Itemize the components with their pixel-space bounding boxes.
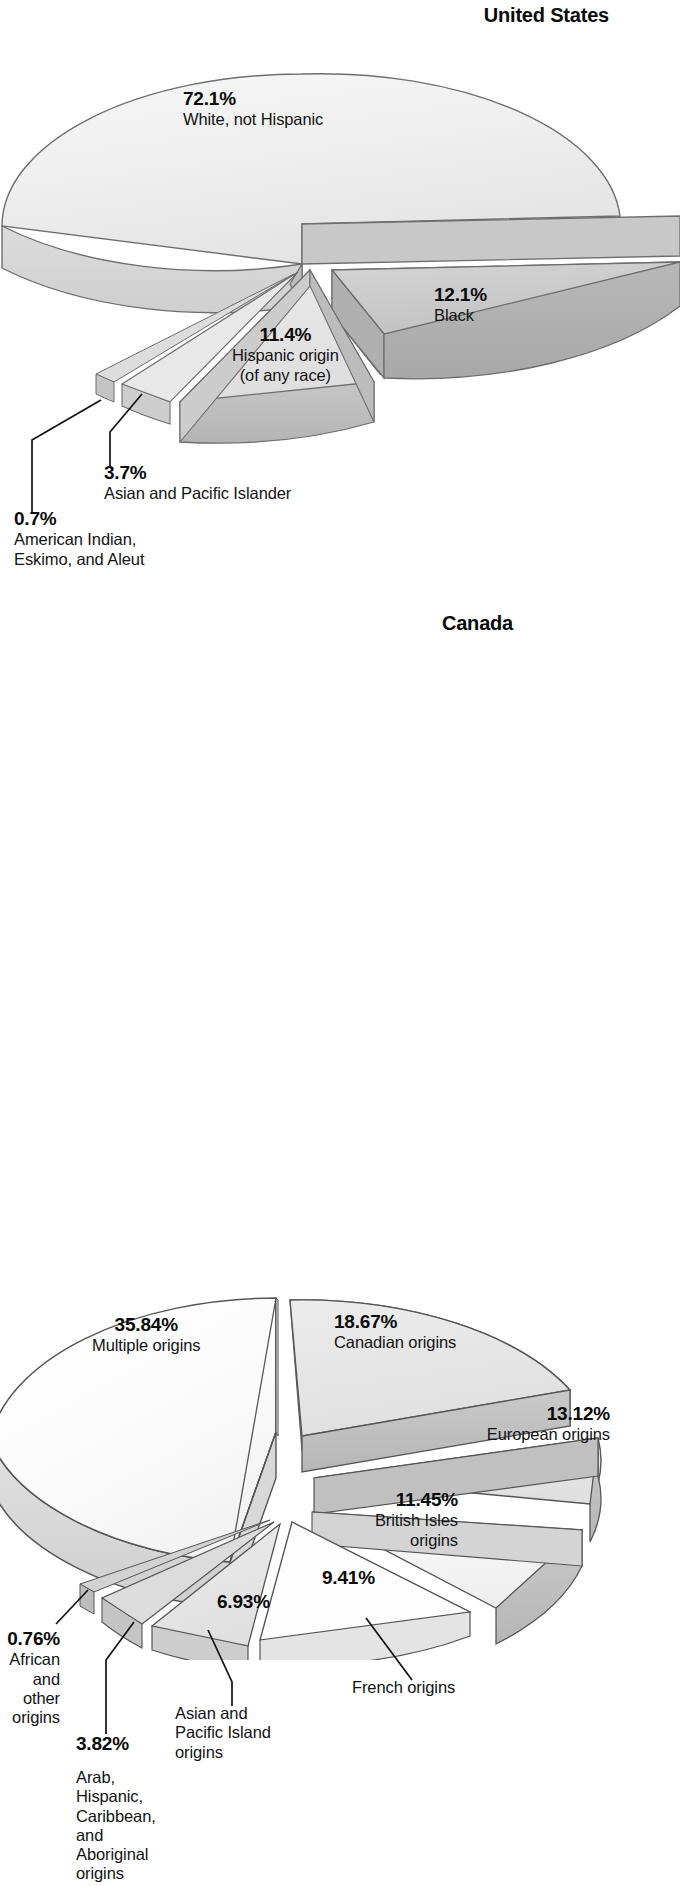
canada-label-canadian-pct: 18.67% bbox=[334, 1311, 456, 1333]
canada-label-arab: 3.82% bbox=[76, 1733, 129, 1755]
canada-label-asian-name1: Asian and bbox=[175, 1704, 271, 1723]
canada-label-african-name2: and bbox=[0, 1670, 60, 1689]
us-slice-black bbox=[332, 262, 680, 379]
canada-label-asian-name-block: Asian and Pacific Island origins bbox=[175, 1704, 271, 1762]
us-chart-title: United States bbox=[484, 4, 609, 27]
canada-label-african-name4: origins bbox=[0, 1708, 60, 1727]
canada-chart-title: Canada bbox=[442, 612, 513, 635]
canada-label-multiple-name: Multiple origins bbox=[92, 1336, 200, 1355]
canada-label-british-name1: British Isles bbox=[310, 1511, 458, 1530]
us-label-american-indian: 0.7% American Indian, Eskimo, and Aleut bbox=[14, 508, 144, 569]
canada-label-british: 11.45% British Isles origins bbox=[310, 1489, 458, 1550]
canada-label-arab-name4: and bbox=[76, 1826, 156, 1845]
us-label-american-indian-name2: Eskimo, and Aleut bbox=[14, 550, 144, 569]
canada-label-british-name2: origins bbox=[310, 1531, 458, 1550]
canada-label-arab-name-block: Arab, Hispanic, Caribbean, and Aborigina… bbox=[76, 1768, 156, 1884]
canada-label-european: 13.12% European origins bbox=[410, 1403, 610, 1445]
us-label-hispanic-pct: 11.4% bbox=[232, 324, 339, 346]
us-label-hispanic-name2: (of any race) bbox=[232, 366, 339, 385]
united-states-chart-panel: United States bbox=[0, 0, 617, 600]
us-pie-svg bbox=[0, 34, 680, 454]
us-label-asian-pacific: 3.7% Asian and Pacific Islander bbox=[104, 462, 291, 504]
canada-label-british-pct: 11.45% bbox=[310, 1489, 458, 1511]
canada-label-french-name-block: French origins bbox=[352, 1678, 455, 1697]
us-label-american-indian-name1: American Indian, bbox=[14, 530, 144, 549]
us-label-white-name: White, not Hispanic bbox=[183, 110, 323, 129]
canada-label-french-pct: 9.41% bbox=[322, 1567, 375, 1589]
canada-label-french: 9.41% bbox=[322, 1567, 375, 1589]
canada-label-french-name: French origins bbox=[352, 1678, 455, 1697]
canada-label-european-name: European origins bbox=[410, 1425, 610, 1444]
us-label-asian-pacific-name: Asian and Pacific Islander bbox=[104, 484, 291, 503]
canada-pie-svg bbox=[0, 1240, 650, 1660]
canada-label-multiple-pct: 35.84% bbox=[92, 1314, 200, 1336]
canada-label-arab-name6: origins bbox=[76, 1864, 156, 1883]
us-label-black: 12.1% Black bbox=[434, 284, 487, 326]
us-pie-chart bbox=[0, 34, 680, 454]
canada-label-asian-name2: Pacific Island bbox=[175, 1723, 271, 1742]
canada-label-african-name3: other bbox=[0, 1689, 60, 1708]
us-label-hispanic-name1: Hispanic origin bbox=[232, 346, 339, 365]
us-label-american-indian-pct: 0.7% bbox=[14, 508, 144, 530]
canada-label-european-pct: 13.12% bbox=[410, 1403, 610, 1425]
canada-label-canadian: 18.67% Canadian origins bbox=[334, 1311, 456, 1353]
canada-label-arab-name2: Hispanic, bbox=[76, 1787, 156, 1806]
us-label-hispanic: 11.4% Hispanic origin (of any race) bbox=[232, 324, 339, 385]
canada-label-arab-pct: 3.82% bbox=[76, 1733, 129, 1755]
us-label-black-name: Black bbox=[434, 306, 487, 325]
canada-chart-panel: Canada bbox=[0, 600, 617, 1314]
canada-label-arab-name5: Aboriginal bbox=[76, 1845, 156, 1864]
canada-label-arab-name1: Arab, bbox=[76, 1768, 156, 1787]
us-label-white-pct: 72.1% bbox=[183, 88, 323, 110]
canada-pie-chart bbox=[0, 1240, 650, 1660]
canada-label-african: 0.76% African and other origins bbox=[0, 1628, 60, 1727]
canada-label-asian-pct-block: 6.93% bbox=[217, 1591, 270, 1613]
canada-label-arab-name3: Caribbean, bbox=[76, 1807, 156, 1826]
canada-label-african-name1: African bbox=[0, 1650, 60, 1669]
canada-label-asian-pct: 6.93% bbox=[217, 1591, 270, 1613]
us-label-asian-pacific-pct: 3.7% bbox=[104, 462, 291, 484]
canada-label-african-pct: 0.76% bbox=[0, 1628, 60, 1650]
canada-label-canadian-name: Canadian origins bbox=[334, 1333, 456, 1352]
canada-label-asian-name3: origins bbox=[175, 1743, 271, 1762]
canada-label-multiple: 35.84% Multiple origins bbox=[92, 1314, 200, 1356]
us-label-black-pct: 12.1% bbox=[434, 284, 487, 306]
us-label-white: 72.1% White, not Hispanic bbox=[183, 88, 323, 130]
